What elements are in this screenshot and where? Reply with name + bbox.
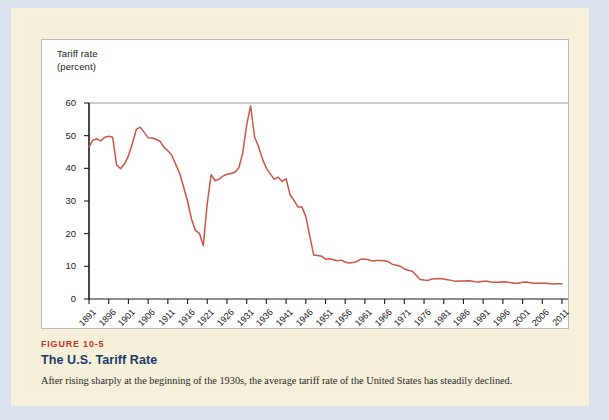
figure-panel: Tariff rate (percent) 0102030405060 1891… — [11, 8, 589, 406]
figure-title: The U.S. Tariff Rate — [41, 353, 562, 367]
figure-caption-text: After rising sharply at the beginning of… — [41, 374, 562, 387]
figure-number: FIGURE 10-5 — [41, 339, 562, 349]
x-axis-tick-labels: 1891189619011906191119161921192619311936… — [42, 40, 570, 330]
figure-caption-block: FIGURE 10-5 The U.S. Tariff Rate After r… — [41, 339, 562, 387]
figure-panel-inner: Tariff rate (percent) 0102030405060 1891… — [20, 17, 580, 397]
chart-plot-card: Tariff rate (percent) 0102030405060 1891… — [41, 39, 569, 329]
